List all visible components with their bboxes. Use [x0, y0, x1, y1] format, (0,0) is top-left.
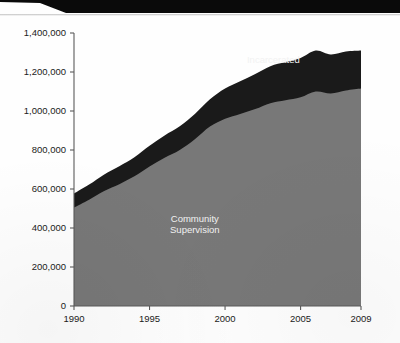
chart-svg: 0200,000400,000600,000800,0001,000,0001,…	[0, 0, 400, 343]
y-tick-label: 800,000	[32, 144, 66, 155]
series-annotation-label: Incarcerated	[247, 54, 300, 65]
stacked-area-chart: 0200,000400,000600,000800,0001,000,0001,…	[0, 0, 400, 343]
x-tick-label: 2009	[350, 313, 371, 324]
y-tick-label: 400,000	[32, 222, 66, 233]
x-tick-label: 1995	[139, 313, 160, 324]
x-axis-tick-labels: 19901995200020052009	[63, 313, 371, 324]
x-tick-label: 2000	[214, 313, 235, 324]
chart-areas	[74, 50, 361, 306]
y-tick-label: 200,000	[32, 261, 66, 272]
y-tick-label: 0	[61, 300, 66, 311]
y-axis-ticks	[70, 33, 74, 306]
y-axis-tick-labels: 0200,000400,000600,000800,0001,000,0001,…	[24, 27, 66, 311]
series-annotation-label: Community	[171, 213, 219, 224]
scanned-page: 0200,000400,000600,000800,0001,000,0001,…	[0, 0, 400, 343]
x-axis-ticks	[74, 306, 361, 310]
x-tick-label: 2005	[290, 313, 311, 324]
y-tick-label: 1,400,000	[24, 27, 66, 38]
series-annotation-label: Supervision	[170, 224, 220, 235]
y-tick-label: 1,200,000	[24, 66, 66, 77]
y-tick-label: 600,000	[32, 183, 66, 194]
x-tick-label: 1990	[63, 313, 84, 324]
y-tick-label: 1,000,000	[24, 105, 66, 116]
